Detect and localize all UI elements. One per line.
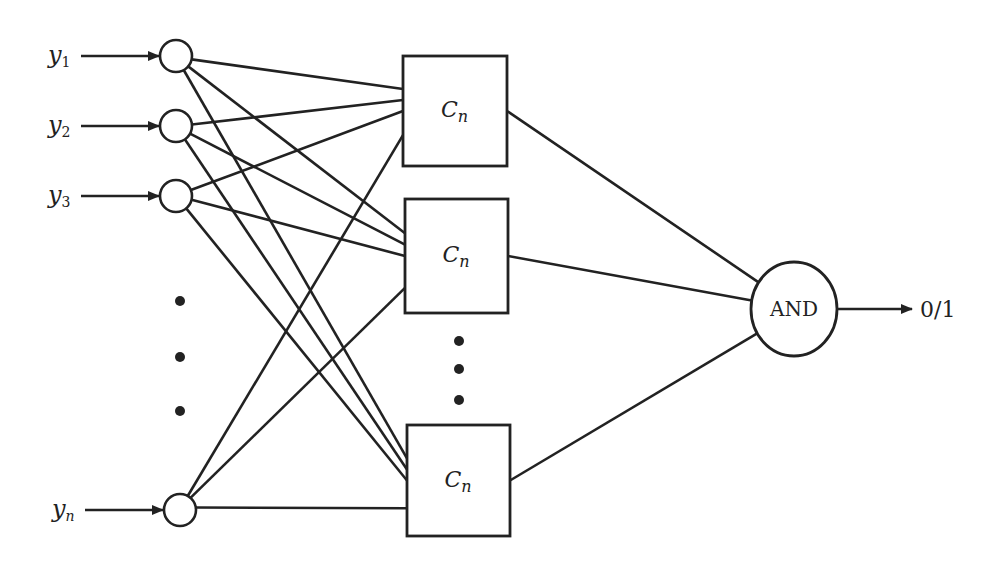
- ellipsis-dot: [175, 406, 185, 416]
- input-label: y2: [47, 111, 70, 140]
- input-node: [160, 180, 192, 212]
- input-node: [164, 494, 196, 526]
- connection-line: [510, 333, 757, 480]
- ellipsis-dot: [454, 336, 464, 346]
- connection-line: [184, 70, 407, 458]
- nodes: [81, 40, 912, 536]
- network-diagram: y1y2y3ynCnCnCnAND0/1: [0, 0, 1005, 569]
- connection-line: [190, 288, 405, 498]
- ellipsis-dot: [175, 296, 185, 306]
- and-label: AND: [769, 297, 818, 321]
- ellipsis-dot: [175, 352, 185, 362]
- ellipsis-dot: [454, 395, 464, 405]
- input-node: [160, 110, 192, 142]
- ellipsis-dot: [454, 364, 464, 374]
- connection-line: [192, 100, 403, 125]
- diagram-canvas: y1y2y3ynCnCnCnAND0/1 0/1 AND: [0, 0, 1005, 569]
- connection-line: [508, 256, 752, 300]
- connection-line: [186, 208, 407, 480]
- connection-line: [507, 111, 759, 282]
- output-value: 0/1: [920, 297, 955, 322]
- connection-line: [196, 508, 407, 509]
- input-label: yn: [51, 495, 75, 524]
- input-label: y1: [47, 41, 70, 70]
- connection-line: [192, 59, 403, 89]
- input-label: y3: [47, 181, 70, 210]
- input-node: [160, 40, 192, 72]
